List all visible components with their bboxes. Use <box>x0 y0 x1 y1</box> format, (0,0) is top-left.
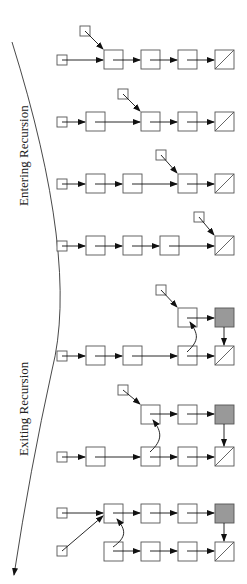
list-node <box>86 236 105 255</box>
list-node <box>178 308 197 327</box>
list-node <box>141 542 160 561</box>
stage-4-row <box>57 212 234 255</box>
stage-3-row <box>57 150 234 193</box>
stage-6-row <box>57 385 234 466</box>
list-node <box>104 542 123 561</box>
list-node <box>104 50 123 69</box>
list-node <box>104 504 123 523</box>
list-node <box>141 50 160 69</box>
entering-recursion-label: Entering Recursion <box>16 105 31 206</box>
shaded-node <box>215 504 234 523</box>
stage-1-row <box>57 26 234 69</box>
list-node <box>141 112 160 131</box>
linked-list-reversal-diagram: Entering Recursion Exiting Recursion <box>0 0 247 584</box>
list-node <box>86 346 105 365</box>
list-node <box>86 112 105 131</box>
exiting-recursion-label: Exiting Recursion <box>16 361 31 456</box>
list-node <box>160 236 179 255</box>
stage-2-row <box>57 89 234 131</box>
shaded-node <box>215 308 234 327</box>
list-node <box>178 174 197 193</box>
list-node <box>178 405 197 424</box>
list-node <box>123 346 142 365</box>
stage-7-row <box>57 504 234 561</box>
list-node <box>86 447 105 466</box>
list-node <box>178 50 197 69</box>
list-node <box>178 346 197 365</box>
list-node <box>178 447 197 466</box>
list-node <box>123 174 142 193</box>
shaded-node <box>215 405 234 424</box>
list-node <box>123 236 142 255</box>
list-node <box>86 174 105 193</box>
list-node <box>178 504 197 523</box>
list-node <box>141 405 160 424</box>
list-node <box>178 542 197 561</box>
list-node <box>178 112 197 131</box>
list-node <box>141 504 160 523</box>
list-node <box>141 447 160 466</box>
stage-5-row <box>57 285 234 365</box>
